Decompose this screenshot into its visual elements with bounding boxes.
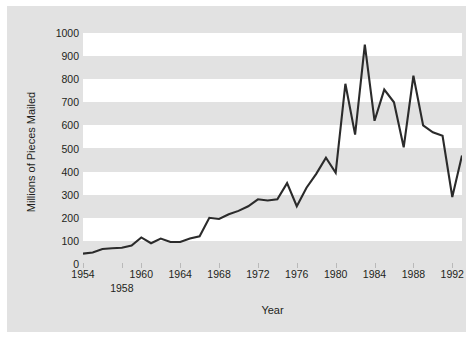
y-axis-tick-label: 1000 bbox=[33, 28, 79, 39]
y-axis-tick-label: 500 bbox=[33, 144, 79, 155]
x-axis-tick-mark bbox=[413, 263, 414, 268]
x-axis-tick-label: 1972 bbox=[246, 269, 269, 280]
x-axis-tick-mark bbox=[375, 263, 376, 268]
x-axis-tick-label: 1954 bbox=[71, 269, 94, 280]
data-series-line bbox=[83, 33, 462, 264]
mail-volume-line bbox=[83, 45, 462, 254]
x-axis-tick-mark bbox=[83, 263, 84, 268]
x-axis-tick-label: 1984 bbox=[363, 269, 386, 280]
x-axis-tick-mark bbox=[122, 263, 123, 268]
x-axis-tick-labels: 1954195819601964196819721976198019841988… bbox=[83, 269, 462, 299]
y-axis-tick-label: 200 bbox=[33, 213, 79, 224]
x-axis-tick-label: 1958 bbox=[110, 283, 133, 294]
x-axis-tick-label: 1976 bbox=[285, 269, 308, 280]
x-axis-tick-mark bbox=[141, 263, 142, 268]
x-axis-tick-label: 1992 bbox=[441, 269, 464, 280]
y-axis-tick-label: 100 bbox=[33, 236, 79, 247]
y-axis-tick-label: 900 bbox=[33, 51, 79, 62]
x-axis-tick-mark bbox=[219, 263, 220, 268]
x-axis-tick-mark bbox=[452, 263, 453, 268]
x-axis-tick-label: 1964 bbox=[168, 269, 191, 280]
x-axis-tick-mark bbox=[258, 263, 259, 268]
y-axis-tick-label: 400 bbox=[33, 167, 79, 178]
y-axis-tick-label: 800 bbox=[33, 74, 79, 85]
y-axis-tick-label: 300 bbox=[33, 190, 79, 201]
y-axis-tick-labels: 10009008007006005004003002001000 bbox=[31, 33, 79, 264]
y-axis-tick-label: 600 bbox=[33, 120, 79, 131]
x-axis-tick-label: 1980 bbox=[324, 269, 347, 280]
y-axis-tick-label: 700 bbox=[33, 97, 79, 108]
x-axis-tick-mark bbox=[336, 263, 337, 268]
plot-area bbox=[83, 33, 462, 264]
chart-figure: Millions of Pieces Mailed 10009008007006… bbox=[0, 0, 473, 341]
x-axis-tick-label: 1988 bbox=[402, 269, 425, 280]
x-axis-tick-label: 1968 bbox=[207, 269, 230, 280]
x-axis-tick-mark bbox=[297, 263, 298, 268]
x-axis-tick-mark bbox=[180, 263, 181, 268]
chart-panel: Millions of Pieces Mailed 10009008007006… bbox=[7, 6, 466, 332]
x-axis-title: Year bbox=[83, 304, 462, 316]
x-axis-tick-label: 1960 bbox=[130, 269, 153, 280]
